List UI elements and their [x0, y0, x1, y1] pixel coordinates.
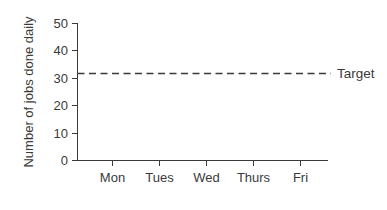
y-tick-label-0: 0 — [61, 153, 68, 168]
y-tick-label-10: 10 — [54, 126, 68, 141]
x-tick-label-tues: Tues — [145, 170, 174, 185]
x-tick-label-fri: Fri — [293, 170, 308, 185]
chart-container: 50 40 30 20 10 0 Number of jobs done dai… — [0, 0, 387, 210]
y-tick-label-30: 30 — [54, 71, 68, 86]
y-tick-label-40: 40 — [54, 43, 68, 58]
target-label: Target — [337, 66, 375, 81]
x-tick-label-thurs: Thurs — [237, 170, 271, 185]
x-tick-label-mon: Mon — [100, 170, 125, 185]
x-tick-label-wed: Wed — [193, 170, 220, 185]
chart-canvas: 50 40 30 20 10 0 Number of jobs done dai… — [0, 0, 387, 210]
y-tick-label-20: 20 — [54, 98, 68, 113]
y-tick-label-50: 50 — [54, 16, 68, 31]
y-axis-title: Number of jobs done daily — [21, 16, 36, 168]
